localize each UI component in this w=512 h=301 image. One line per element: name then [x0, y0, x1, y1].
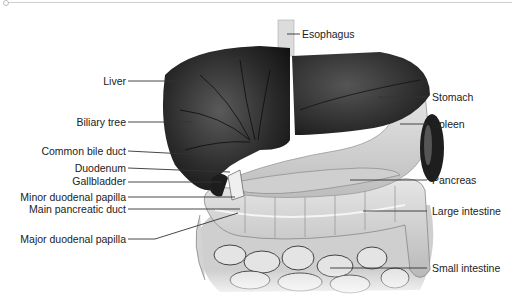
label-common-bile-duct: Common bile duct: [41, 145, 126, 157]
label-stomach: Stomach: [432, 91, 473, 103]
label-main-pancreatic-duct: Main pancreatic duct: [29, 203, 126, 215]
label-duodenum: Duodenum: [75, 162, 126, 174]
label-minor-duodenal-papilla: Minor duodenal papilla: [20, 191, 126, 203]
label-major-duodenal-papilla: Major duodenal papilla: [20, 233, 126, 245]
label-spleen: Spleen: [432, 118, 465, 130]
label-liver: Liver: [103, 75, 126, 87]
label-biliary-tree: Biliary tree: [76, 116, 126, 128]
label-esophagus: Esophagus: [302, 28, 355, 40]
label-small-intestine: Small intestine: [432, 262, 500, 274]
label-pancreas: Pancreas: [432, 174, 476, 186]
label-large-intestine: Large intestine: [432, 205, 501, 217]
label-gallbladder: Gallbladder: [72, 175, 126, 187]
